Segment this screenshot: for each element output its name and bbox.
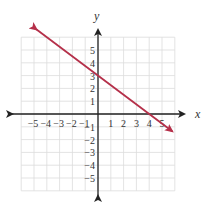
y-tick-label: 5 <box>90 45 95 56</box>
x-tick-label: −5 <box>28 118 39 129</box>
y-tick-label: 1 <box>90 96 95 107</box>
y-axis-label: y <box>93 9 100 23</box>
coordinate-plane: x y −5−4−3−2−112345 54321−1−2−3−4−5 <box>0 0 206 202</box>
data-line <box>37 30 173 132</box>
y-tick-label: 2 <box>90 83 95 94</box>
y-tick-label: −5 <box>84 173 95 184</box>
x-axis-label: x <box>194 107 201 121</box>
y-tick-label: −2 <box>84 135 95 146</box>
x-tick-label: −4 <box>40 118 51 129</box>
x-tick-label: 4 <box>147 118 152 129</box>
x-tick-label: 2 <box>121 118 126 129</box>
x-tick-labels: −5−4−3−2−112345 <box>28 118 165 129</box>
x-tick-label: 3 <box>134 118 139 129</box>
x-tick-label: −2 <box>66 118 77 129</box>
y-tick-label: −4 <box>84 160 95 171</box>
x-tick-label: 1 <box>108 118 113 129</box>
y-tick-label: 4 <box>90 58 95 69</box>
x-tick-label: −3 <box>53 118 64 129</box>
y-tick-label: −1 <box>84 122 95 133</box>
y-tick-label: −3 <box>84 147 95 158</box>
